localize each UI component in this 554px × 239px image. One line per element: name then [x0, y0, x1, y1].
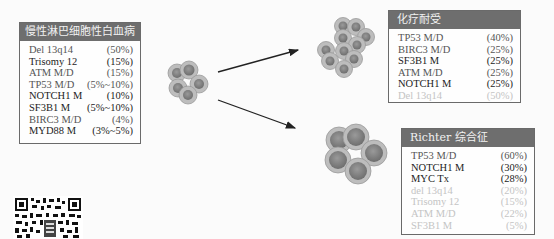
arrow-to-richter-icon — [218, 100, 295, 128]
qr-code-icon — [13, 196, 83, 239]
cell-evolution-illustration — [0, 0, 554, 239]
cll-cell-cluster-icon — [168, 61, 208, 104]
chemo-resistant-cell-cluster-icon — [318, 18, 375, 78]
richter-cell-cluster-icon — [325, 124, 387, 184]
arrow-to-chemo-resistance-icon — [218, 50, 298, 72]
